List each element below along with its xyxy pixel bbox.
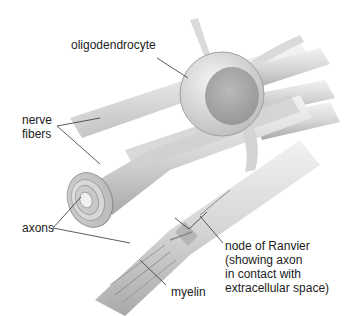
label-axons: axons xyxy=(22,221,54,235)
label-nerve-fibers: nerve fibers xyxy=(22,113,52,141)
label-myelin: myelin xyxy=(171,285,206,299)
label-oligodendrocyte: oligodendrocyte xyxy=(71,38,156,52)
diagram-canvas: oligodendrocyte nerve fibers axons node … xyxy=(0,0,344,316)
label-node-of-ranvier: node of Ranvier (showing axon in contact… xyxy=(225,239,329,295)
